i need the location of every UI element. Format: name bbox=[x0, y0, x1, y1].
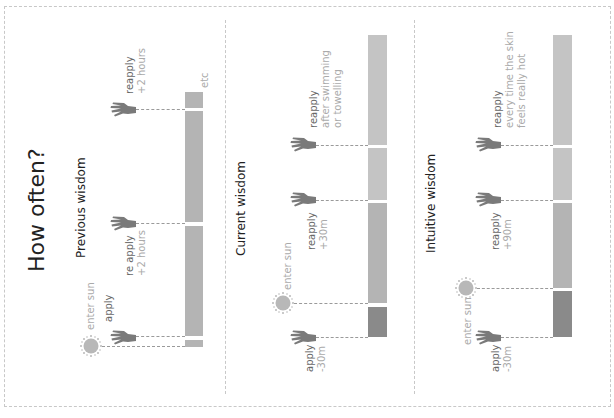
connector-line bbox=[136, 336, 185, 337]
bar-segment bbox=[553, 148, 572, 200]
bar-segment bbox=[185, 226, 203, 336]
bar-segment bbox=[368, 148, 387, 200]
etc-label: etc bbox=[199, 72, 211, 88]
event-label: enter sun bbox=[462, 297, 474, 345]
bar-segment bbox=[368, 203, 387, 303]
connector-line bbox=[102, 346, 185, 347]
event-label: reapplyafter swimmingor towelling bbox=[308, 50, 344, 128]
bar-segment bbox=[185, 340, 203, 347]
hand-icon bbox=[290, 190, 316, 208]
hand-icon bbox=[110, 100, 136, 118]
connector-line bbox=[477, 288, 553, 289]
event-label: reapply+90m bbox=[490, 212, 514, 250]
panel-title: Previous wisdom bbox=[74, 157, 88, 258]
sun-icon bbox=[455, 277, 477, 299]
bar-segment bbox=[185, 92, 203, 108]
event-label: reapply+30m bbox=[306, 212, 330, 250]
event-label: re apply+2 hours bbox=[124, 230, 148, 276]
panel-title: Current wisdom bbox=[234, 161, 248, 256]
panel-divider bbox=[414, 20, 415, 394]
bar-segment bbox=[553, 35, 572, 145]
connector-line bbox=[316, 200, 368, 201]
event-label: reapply+2 hours bbox=[124, 48, 148, 94]
hand-icon bbox=[475, 135, 501, 153]
event-label: apply-30m bbox=[304, 344, 328, 372]
panel-title: Intuitive wisdom bbox=[424, 154, 438, 253]
hand-icon bbox=[475, 190, 501, 208]
connector-line bbox=[501, 200, 553, 201]
sun-icon bbox=[80, 335, 102, 357]
event-label: apply-30m bbox=[490, 344, 514, 372]
connector-line bbox=[501, 337, 553, 338]
event-label: reapplyevery time the skinfeels really h… bbox=[492, 31, 528, 128]
event-label: enter sun bbox=[282, 242, 294, 290]
bar-segment bbox=[553, 291, 572, 337]
bar-segment bbox=[368, 35, 387, 145]
event-label: enter sun bbox=[85, 282, 97, 330]
event-label: apply bbox=[103, 294, 115, 322]
bar-segment bbox=[185, 111, 203, 222]
connector-line bbox=[501, 145, 553, 146]
page-title: How often? bbox=[24, 148, 49, 272]
sun-icon bbox=[272, 292, 294, 314]
hand-icon bbox=[110, 328, 136, 346]
panel-divider bbox=[225, 20, 226, 394]
bar-segment bbox=[368, 307, 387, 337]
connector-line bbox=[316, 145, 368, 146]
connector-line bbox=[294, 303, 368, 304]
hand-icon bbox=[290, 135, 316, 153]
connector-line bbox=[316, 337, 368, 338]
connector-line bbox=[136, 223, 185, 224]
bar-segment bbox=[553, 203, 572, 288]
connector-line bbox=[136, 109, 185, 110]
